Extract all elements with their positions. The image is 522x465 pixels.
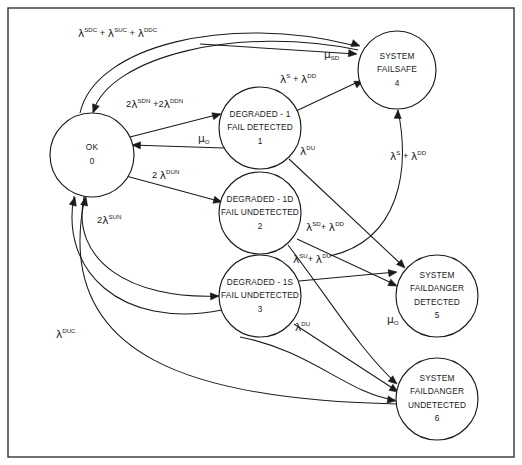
edge-label-edge-2-6: λSU+ λDU <box>293 252 331 265</box>
edge-label-edge-0-1: 2λSDN +2λDDN <box>126 97 183 110</box>
arrowhead-glyph <box>210 292 219 300</box>
edge-state-1-to-state-0 <box>131 145 224 148</box>
arrowhead-glyph <box>348 50 357 58</box>
node-state-0[interactable]: OK0 <box>50 113 134 197</box>
node-index: 2 <box>258 221 263 231</box>
edge-state-5-to-state-6 <box>240 337 395 400</box>
arrow-into-5-left-b <box>388 268 397 276</box>
node-label-line: FAIL UNDETECTED <box>221 207 299 217</box>
edge-state-0-to-state-3 <box>82 197 219 296</box>
node-index: 6 <box>435 413 440 423</box>
nodes-layer: OK0DEGRADED - 1FAIL DETECTED1DEGRADED - … <box>50 31 478 440</box>
node-label-line: FAIL UNDETECTED <box>221 290 299 300</box>
state-transition-diagram: OK0DEGRADED - 1FAIL DETECTED1DEGRADED - … <box>0 0 522 465</box>
edge-label-edge-5-6-mu: μO <box>387 313 399 326</box>
node-label-line: SYSTEM <box>379 51 414 61</box>
node-label-line: DEGRADED - 1S <box>227 277 294 287</box>
node-index: 3 <box>258 304 263 314</box>
arrow-into-3-left <box>210 292 219 300</box>
edge-label-edge-1-4: λS + λDD <box>280 72 317 85</box>
arrowhead-glyph <box>388 268 397 276</box>
arrowhead-glyph <box>394 110 401 119</box>
node-label-line: DETECTED <box>414 297 460 307</box>
arrowhead-glyph <box>351 40 361 50</box>
edge-state-0-to-state-1 <box>130 114 220 137</box>
arrow-into-4-bottom <box>394 110 401 119</box>
edge-label-edge-3-6: λDU <box>295 320 310 333</box>
node-label-line: OK <box>86 142 99 152</box>
node-state-2[interactable]: DEGRADED - 1DFAIL UNDETECTED2 <box>219 172 301 254</box>
node-index: 0 <box>90 156 95 166</box>
edge-state-3-to-state-5 <box>299 272 396 281</box>
node-label-line: FAILDANGER <box>410 283 464 293</box>
node-state-5[interactable]: SYSTEMFAILDANGERDETECTED5 <box>396 255 478 337</box>
node-label-line: UNDETECTED <box>408 400 466 410</box>
edge-label-edge-0-3: 2λSUN <box>97 213 121 226</box>
node-state-4[interactable]: SYSTEMFAILSAFE4 <box>358 31 436 109</box>
arrow-into-6-c <box>387 396 397 405</box>
edge-label-edge-2-5: λSD+ λDD <box>306 220 345 233</box>
edge-state-0-to-state-2 <box>126 176 222 202</box>
node-state-6[interactable]: SYSTEMFAILDANGERUNDETECTED6 <box>396 358 478 440</box>
arrow-into-4-left-a <box>351 40 361 50</box>
edge-label-edge-0-2: 2 λDUN <box>152 168 179 181</box>
edge-label-edge-4-1: μSD <box>324 48 340 61</box>
edge-state-2-to-state-4 <box>330 110 402 256</box>
edge-state-2-to-state-6 <box>288 245 396 383</box>
edge-label-edge-2-4: λS + λDD <box>390 149 427 162</box>
node-index: 1 <box>258 136 263 146</box>
diagram-frame: OK0DEGRADED - 1FAIL DETECTED1DEGRADED - … <box>0 0 522 465</box>
node-state-1[interactable]: DEGRADED - 1FAIL DETECTED1 <box>219 87 301 169</box>
node-state-3[interactable]: DEGRADED - 1SFAIL UNDETECTED3 <box>219 255 301 337</box>
node-label-line: SYSTEM <box>419 270 454 280</box>
edge-state-3-to-state-6 <box>294 324 397 391</box>
node-label-line: FAIL DETECTED <box>227 122 293 132</box>
node-label-line: FAILDANGER <box>410 386 464 396</box>
node-label-line: DEGRADED - 1D <box>227 194 294 204</box>
node-label-line: FAILSAFE <box>377 64 417 74</box>
arrow-into-4-left-b <box>348 50 357 58</box>
edge-label-edge-6-0: λDUC <box>56 327 76 340</box>
node-label-line: SYSTEM <box>419 373 454 383</box>
node-index: 5 <box>435 310 440 320</box>
edge-label-edge-0-4: λSDC + λSUC + λDDC <box>78 26 158 39</box>
arrowhead-glyph <box>387 396 397 405</box>
edge-label-edge-1-0: μO <box>198 132 210 145</box>
node-index: 4 <box>395 78 400 88</box>
edge-label-edge-1-5: λDU <box>300 144 315 157</box>
node-label-line: DEGRADED - 1 <box>230 109 291 119</box>
